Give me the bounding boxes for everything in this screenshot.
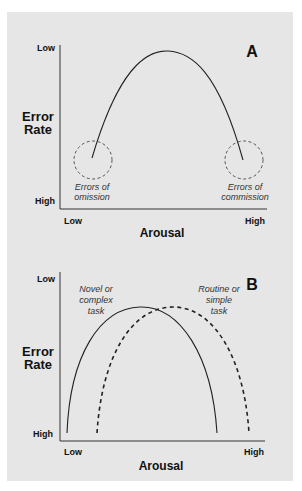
omission-label-line1: Errors of	[75, 182, 111, 192]
y-tick-low-a: Low	[37, 43, 56, 53]
y-tick-high-b: High	[33, 429, 53, 439]
commission-label-line1: Errors of	[228, 182, 264, 192]
omission-label-line2: omission	[74, 192, 110, 202]
y-tick-high-a: High	[35, 196, 55, 206]
x-tick-low-a: Low	[64, 216, 83, 226]
y-tick-low-b: Low	[37, 274, 56, 284]
x-title-a: Arousal	[140, 226, 185, 240]
x-tick-high-b: High	[244, 447, 264, 457]
panel-letter-a: A	[246, 43, 258, 60]
omission-circle	[74, 141, 112, 179]
x-tick-low-b: Low	[64, 447, 83, 457]
y-title-b-line2: Rate	[24, 357, 52, 372]
routine-label-line1: Routine or	[198, 284, 241, 294]
x-title-b: Arousal	[139, 459, 184, 473]
x-tick-high-a: High	[245, 216, 265, 226]
routine-task-curve	[97, 307, 249, 433]
panel-letter-b: B	[246, 276, 258, 293]
panel-b: Low High Error Rate Low High Arousal B N…	[22, 272, 265, 473]
panel-a: Low High Error Rate Low High Arousal A E…	[22, 43, 269, 240]
inverted-u-curve-a	[92, 51, 243, 160]
routine-label-line2: simple	[206, 295, 232, 305]
novel-label-line3: task	[88, 306, 105, 316]
novel-label-line2: complex	[79, 295, 113, 305]
y-title-a-line2: Rate	[24, 122, 52, 137]
novel-label-line1: Novel or	[79, 284, 114, 294]
commission-circle	[225, 141, 263, 179]
inverted-u-diagram: Low High Error Rate Low High Arousal A E…	[0, 0, 302, 491]
commission-label-line2: commission	[221, 192, 269, 202]
novel-task-curve	[67, 307, 217, 433]
routine-label-line3: task	[211, 306, 228, 316]
